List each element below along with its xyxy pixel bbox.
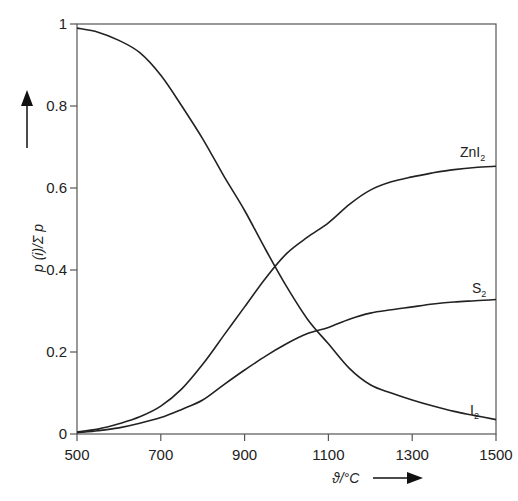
plot-frame [77, 24, 496, 434]
x-tick-label: 500 [64, 446, 89, 463]
tick-marks: 50070090011001300150000.20.40.60.81 [46, 15, 513, 463]
series-line-zni2 [77, 166, 496, 432]
y-axis-arrow-icon [21, 90, 33, 148]
y-tick-label: 0.4 [46, 261, 67, 278]
x-tick-label: 700 [148, 446, 173, 463]
y-tick-label: 0.6 [46, 179, 67, 196]
x-tick-label: 1100 [312, 446, 344, 463]
series-line-i2 [77, 28, 496, 420]
y-axis-title: p (i)/Σ p [30, 224, 46, 273]
x-tick-label: 1500 [479, 446, 512, 463]
series-label-zni2: ZnI2 [460, 144, 485, 163]
y-tick-label: 0 [59, 425, 67, 442]
x-tick-label: 1300 [396, 446, 429, 463]
series-group [77, 28, 496, 433]
y-axis-label: p (i)/Σ p [30, 224, 46, 273]
x-tick-label: 900 [232, 446, 257, 463]
line-chart: 50070090011001300150000.20.40.60.81 I2Zn… [0, 0, 518, 501]
series-label-i2: I2 [470, 402, 479, 421]
series-label-s2: S2 [472, 280, 486, 299]
axes [77, 24, 496, 434]
series-labels: I2ZnI2S2 [460, 144, 486, 421]
y-tick-label: 0.8 [46, 97, 67, 114]
y-tick-label: 0.2 [46, 343, 67, 360]
x-axis-label: ϑ/°C [332, 470, 360, 486]
y-tick-label: 1 [59, 15, 67, 32]
series-line-s2 [77, 300, 496, 433]
x-axis-arrow-icon [373, 472, 423, 484]
